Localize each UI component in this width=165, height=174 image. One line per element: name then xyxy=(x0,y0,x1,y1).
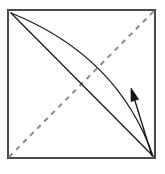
fold-diagram-container xyxy=(0,0,165,174)
origami-fold-diagram xyxy=(0,0,165,174)
